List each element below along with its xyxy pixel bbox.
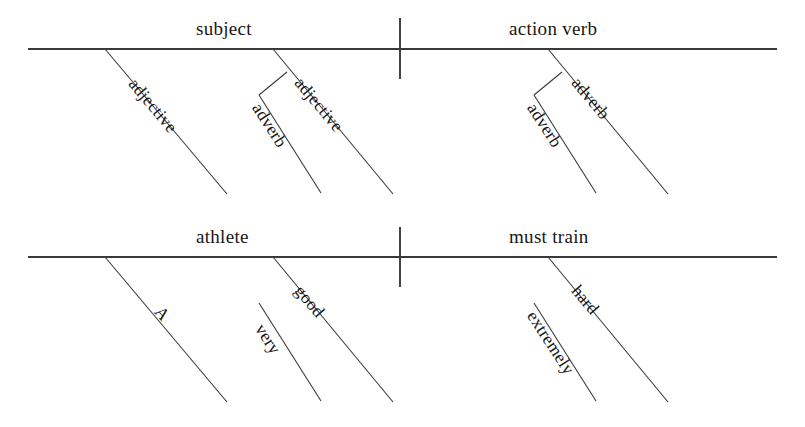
example-article-a-line (105, 257, 227, 402)
example-verb-phrase-label: must train (509, 226, 589, 248)
diagram-lines (0, 0, 805, 427)
sentence-diagram-page: subjectaction verbadjectiveadjectiveadve… (0, 0, 805, 427)
template-verb-adverb-2-connector (534, 72, 562, 95)
template-subject-label: subject (196, 18, 252, 40)
example-adjective-good-line (273, 257, 393, 402)
template-action-verb-label: action verb (509, 18, 597, 40)
template-verb-adverb-1-line (548, 49, 668, 194)
template-subject-adverb-connector (259, 72, 287, 95)
example-subject-word-label: athlete (196, 226, 249, 248)
example-adverb-hard-line (548, 257, 668, 402)
